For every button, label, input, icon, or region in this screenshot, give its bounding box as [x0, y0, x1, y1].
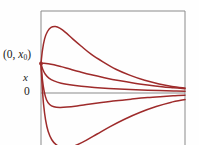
y-axis-label: x: [23, 72, 28, 83]
curve-trajectory-5: [41, 63, 185, 145]
differential-equation-plot: (0, x0) x 0: [0, 0, 199, 145]
plot-canvas: [0, 0, 199, 145]
origin-tick-label: 0: [24, 86, 30, 98]
initial-label-close-paren: ): [27, 48, 31, 60]
initial-condition-marker: [39, 62, 43, 66]
trajectory-curves: [41, 27, 185, 145]
initial-condition-label: (0, x0): [3, 49, 31, 61]
